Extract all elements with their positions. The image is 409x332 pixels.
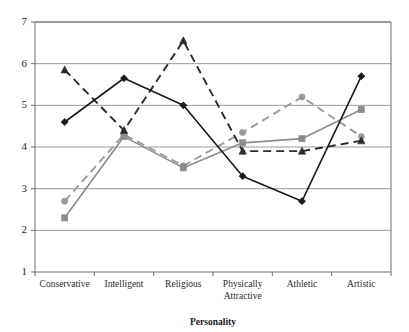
x-tick-label-0: Conservative <box>40 279 90 289</box>
chart-canvas: 1234567ConservativeIntelligentReligiousP… <box>0 0 409 332</box>
y-tick-label-3: 3 <box>22 182 28 194</box>
series-4-point-0 <box>62 198 68 204</box>
x-tick-label-4: Athletic <box>287 279 318 289</box>
series-4-point-3 <box>240 129 246 135</box>
series-2-point-0 <box>61 66 68 73</box>
y-tick-label-7: 7 <box>22 15 28 27</box>
series-line-2 <box>65 41 362 151</box>
series-2-point-2 <box>180 37 187 44</box>
x-tick-label-2: Religious <box>165 279 202 289</box>
series-3-point-4 <box>299 136 305 142</box>
personality-line-chart: 1234567ConservativeIntelligentReligiousP… <box>0 0 409 332</box>
y-tick-label-1: 1 <box>22 265 28 277</box>
series-4-point-4 <box>299 94 305 100</box>
series-3-point-3 <box>240 140 246 146</box>
y-tick-label-6: 6 <box>22 57 28 69</box>
series-3-point-2 <box>180 165 186 171</box>
series-line-3 <box>65 110 362 218</box>
y-tick-label-4: 4 <box>22 140 28 152</box>
series-3-point-5 <box>358 106 364 112</box>
series-1-point-4 <box>298 198 305 205</box>
series-3-point-1 <box>121 133 127 139</box>
series-3-point-0 <box>62 215 68 221</box>
x-tick-label-5: Artistic <box>347 279 376 289</box>
x-tick-label-1: Intelligent <box>104 279 143 289</box>
series-1 <box>61 73 365 205</box>
series-2 <box>61 37 365 155</box>
x-axis-title: Personality <box>190 317 236 327</box>
x-tick-label-3: Attractive <box>224 291 262 301</box>
series-1-point-5 <box>358 73 365 80</box>
x-tick-label-3: Physically <box>223 279 263 289</box>
y-tick-label-2: 2 <box>22 223 28 235</box>
y-tick-label-5: 5 <box>22 98 28 110</box>
